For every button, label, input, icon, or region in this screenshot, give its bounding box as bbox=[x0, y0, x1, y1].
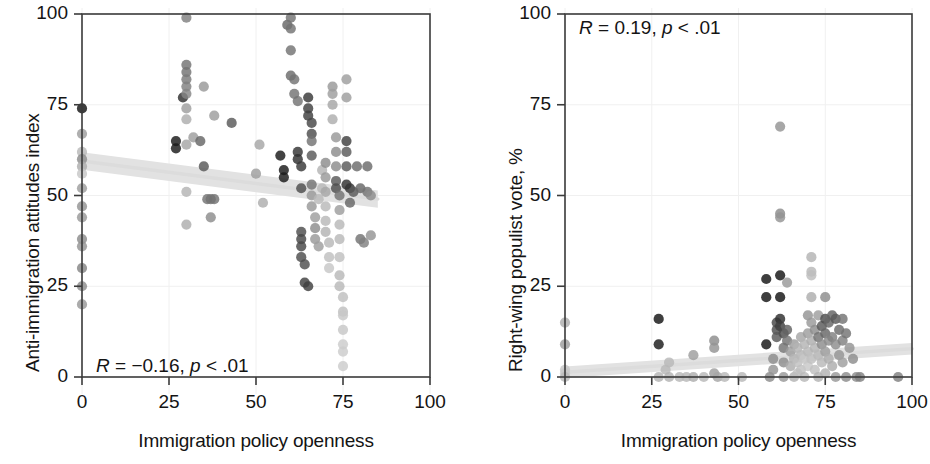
scatter-point bbox=[181, 89, 191, 99]
scatter-point bbox=[286, 23, 296, 33]
scatter-point bbox=[334, 219, 344, 229]
y-tick-label: 25 bbox=[16, 274, 68, 296]
scatter-point bbox=[848, 354, 858, 364]
panel-right: Right-wing populist vote, % Immigration … bbox=[465, 0, 930, 464]
x-tick-label: 0 bbox=[535, 391, 595, 413]
scatter-point bbox=[327, 114, 337, 124]
y-tick-label: 100 bbox=[16, 2, 68, 24]
scatter-point bbox=[199, 161, 209, 171]
stat-annotation-left: R = −0.16, p < .01 bbox=[96, 355, 249, 377]
x-axis-title-left: Immigration policy openness bbox=[82, 430, 430, 452]
y-axis-title-left: Anti-immigration attitudes index bbox=[22, 113, 44, 372]
r-symbol: R bbox=[579, 17, 593, 38]
scatter-point bbox=[251, 169, 261, 179]
scatter-point bbox=[838, 357, 848, 367]
scatter-point bbox=[362, 161, 372, 171]
scatter-point bbox=[782, 278, 792, 288]
scatter-point bbox=[806, 270, 816, 280]
x-tick-label: 25 bbox=[622, 391, 682, 413]
scatter-point bbox=[258, 198, 268, 208]
scatter-point bbox=[331, 147, 341, 157]
scatter-point bbox=[709, 343, 719, 353]
scatter-point bbox=[341, 147, 351, 157]
equals-sign: = bbox=[593, 17, 615, 38]
scatter-point bbox=[303, 92, 313, 102]
equals-sign: = bbox=[110, 355, 132, 376]
scatter-point bbox=[310, 212, 320, 222]
scatter-point bbox=[761, 274, 771, 284]
scatter-figure: Anti-immigration attitudes index Immigra… bbox=[0, 0, 930, 464]
y-tick-label: 50 bbox=[499, 184, 551, 206]
y-tick-label: 0 bbox=[16, 365, 68, 387]
separator: , bbox=[179, 355, 190, 376]
scatter-point bbox=[324, 263, 334, 273]
scatter-point bbox=[775, 121, 785, 131]
y-axis-title-right: Right-wing populist vote, % bbox=[505, 148, 527, 372]
scatter-point bbox=[654, 314, 664, 324]
scatter-point bbox=[341, 136, 351, 146]
scatter-point bbox=[209, 194, 219, 204]
scatter-point bbox=[279, 172, 289, 182]
scatter-point bbox=[321, 227, 331, 237]
less-than-sign: < bbox=[673, 17, 695, 38]
p-value: .01 bbox=[694, 17, 720, 38]
p-symbol: p bbox=[190, 355, 201, 376]
p-value: .01 bbox=[222, 355, 248, 376]
scatter-point bbox=[321, 158, 331, 168]
scatter-point bbox=[324, 238, 334, 248]
separator: , bbox=[651, 17, 662, 38]
scatter-point bbox=[303, 281, 313, 291]
y-tick-label: 0 bbox=[499, 365, 551, 387]
scatter-point bbox=[338, 346, 348, 356]
scatter-point bbox=[209, 111, 219, 121]
scatter-point bbox=[171, 143, 181, 153]
scatter-point bbox=[286, 45, 296, 55]
x-tick-label: 50 bbox=[226, 391, 286, 413]
scatter-point bbox=[181, 219, 191, 229]
scatter-point bbox=[334, 234, 344, 244]
scatter-point bbox=[181, 114, 191, 124]
panel-left: Anti-immigration attitudes index Immigra… bbox=[0, 0, 465, 464]
scatter-point bbox=[296, 241, 306, 251]
scatter-point bbox=[338, 292, 348, 302]
scatter-point bbox=[334, 252, 344, 262]
scatter-point bbox=[341, 92, 351, 102]
scatter-point bbox=[768, 354, 778, 364]
less-than-sign: < bbox=[201, 355, 223, 376]
scatter-point bbox=[761, 292, 771, 302]
y-tick-label: 50 bbox=[16, 184, 68, 206]
scatter-point bbox=[654, 339, 664, 349]
p-symbol: p bbox=[662, 17, 673, 38]
scatter-point bbox=[300, 259, 310, 269]
r-value: −0.16 bbox=[131, 355, 179, 376]
scatter-point bbox=[227, 118, 237, 128]
scatter-point bbox=[782, 325, 792, 335]
scatter-point bbox=[324, 252, 334, 262]
y-tick-label: 25 bbox=[499, 274, 551, 296]
scatter-point bbox=[181, 103, 191, 113]
scatter-point bbox=[206, 212, 216, 222]
scatter-point bbox=[366, 230, 376, 240]
scatter-point bbox=[321, 187, 331, 197]
scatter-point bbox=[366, 190, 376, 200]
scatter-point bbox=[310, 223, 320, 233]
scatter-point bbox=[275, 150, 285, 160]
y-tick-label: 75 bbox=[16, 93, 68, 115]
x-tick-label: 100 bbox=[882, 391, 930, 413]
stat-annotation-right: R = 0.19, p < .01 bbox=[579, 17, 721, 39]
r-value: 0.19 bbox=[614, 17, 651, 38]
scatter-point bbox=[827, 361, 837, 371]
x-tick-label: 25 bbox=[139, 391, 199, 413]
scatter-point bbox=[327, 89, 337, 99]
scatter-point bbox=[838, 314, 848, 324]
x-tick-label: 100 bbox=[400, 391, 460, 413]
scatter-point bbox=[345, 198, 355, 208]
scatter-point bbox=[341, 161, 351, 171]
scatter-point bbox=[296, 183, 306, 193]
scatter-point bbox=[293, 96, 303, 106]
scatter-point bbox=[806, 292, 816, 302]
scatter-point bbox=[334, 281, 344, 291]
scatter-point bbox=[338, 310, 348, 320]
scatter-point bbox=[775, 212, 785, 222]
scatter-point bbox=[844, 343, 854, 353]
